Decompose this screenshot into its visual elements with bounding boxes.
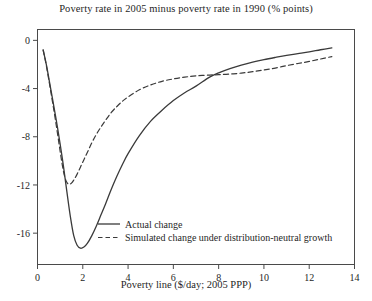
- y-tick-label--12: -12: [17, 180, 30, 191]
- poverty-rate-chart-figure: Poverty rate in 2005 minus poverty rate …: [0, 0, 372, 301]
- legend-label-1: Actual change: [125, 219, 183, 230]
- y-tick-label-0: 0: [25, 35, 30, 46]
- x-axis-label: Poverty line ($/day; 2005 PPP): [0, 279, 372, 290]
- y-tick-label--4: -4: [22, 83, 30, 94]
- series-line-2: [43, 50, 332, 184]
- y-tick-label--8: -8: [22, 131, 30, 142]
- plot-frame: [38, 30, 355, 265]
- legend-label-2: Simulated change under distribution-neut…: [125, 232, 332, 243]
- series-line-1: [43, 48, 332, 248]
- y-tick-label--16: -16: [17, 228, 30, 239]
- chart-plot-area: 024681012140-4-8-12-16Actual changeSimul…: [0, 0, 372, 301]
